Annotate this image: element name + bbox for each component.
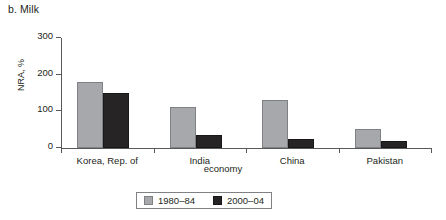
y-axis-tick-label: 100	[37, 103, 53, 114]
x-axis-title: economy	[0, 163, 446, 174]
plot-area: 0100200300 Korea, Rep. ofIndiaChinaPakis…	[61, 38, 431, 148]
x-axis-tick-mark	[246, 148, 247, 153]
legend-label: 2000–04	[227, 195, 264, 206]
bar	[262, 100, 288, 148]
bar	[196, 135, 222, 148]
bar-group	[246, 38, 339, 148]
bar	[355, 129, 381, 148]
y-axis-title: NRA, %	[16, 45, 26, 105]
bar-group	[154, 38, 247, 148]
bar	[170, 107, 196, 148]
y-axis-tick-label: 300	[37, 30, 53, 41]
x-axis-tick-mark	[61, 148, 62, 153]
bar	[77, 82, 103, 148]
x-axis-tick-mark	[154, 148, 155, 153]
legend-item: 2000–04	[213, 195, 264, 206]
bar-group	[339, 38, 432, 148]
bar-group	[61, 38, 154, 148]
bar	[103, 93, 129, 148]
legend-swatch	[213, 196, 222, 205]
panel-title: b. Milk	[8, 3, 39, 15]
legend-item: 1980–84	[144, 195, 195, 206]
bar	[381, 141, 407, 148]
chart-legend: 1980–842000–04	[136, 192, 272, 209]
legend-label: 1980–84	[158, 195, 195, 206]
y-axis-tick-label: 0	[48, 140, 53, 151]
x-axis-tick-mark	[431, 148, 432, 153]
x-axis-tick-mark	[339, 148, 340, 153]
bar	[288, 139, 314, 148]
y-axis-tick-label: 200	[37, 67, 53, 78]
legend-swatch	[144, 196, 153, 205]
